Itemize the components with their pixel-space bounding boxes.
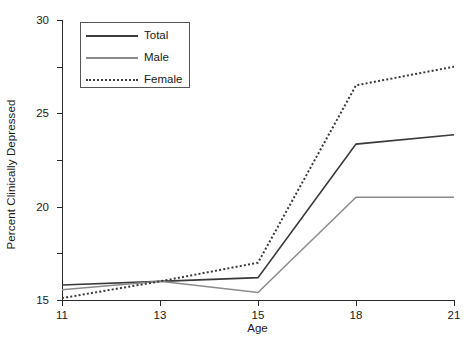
x-axis-title: Age — [60, 322, 455, 334]
chart-legend: TotalMaleFemale — [80, 22, 190, 88]
x-axis-tick-label: 11 — [56, 309, 68, 321]
legend-label: Female — [144, 73, 182, 85]
chart-figure: Percent Clinically Depressed Age 0510152… — [0, 0, 466, 349]
x-axis-tick-label: 15 — [252, 309, 265, 321]
x-axis-tick-label: 18 — [350, 309, 363, 321]
x-axis-tick — [356, 301, 357, 306]
y-axis-title: Percent Clinically Depressed — [0, 0, 22, 349]
y-axis-tick-label: 15 — [36, 294, 49, 306]
legend-swatch-total-icon — [86, 29, 138, 41]
x-axis-tick-label: 21 — [448, 309, 461, 321]
series-line-female — [62, 67, 454, 298]
legend-label: Male — [144, 51, 169, 63]
legend-swatch-male-icon — [86, 51, 138, 63]
x-axis-tick — [160, 301, 161, 306]
y-axis-tick-label: 25 — [36, 107, 49, 119]
x-axis-tick-label: 13 — [154, 309, 167, 321]
x-axis-tick — [62, 301, 63, 306]
legend-item-female: Female — [81, 68, 191, 90]
legend-item-male: Male — [81, 46, 191, 68]
legend-swatch-female-icon — [86, 73, 138, 85]
legend-item-total: Total — [81, 24, 191, 46]
legend-label: Total — [144, 29, 168, 41]
y-axis-tick-label: 30 — [36, 14, 49, 26]
x-axis-tick — [454, 301, 455, 306]
x-axis-tick — [258, 301, 259, 306]
y-axis-tick-label: 20 — [36, 201, 49, 213]
plot-area: 051015202530 1113151821 TotalMaleFemale — [62, 20, 455, 301]
